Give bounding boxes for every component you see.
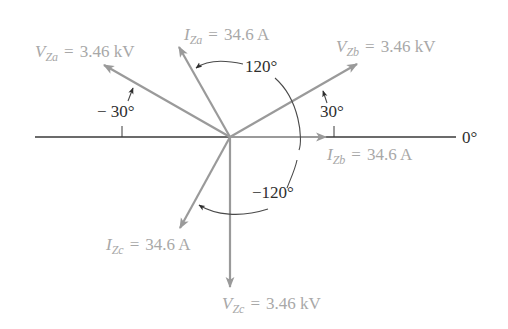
angle-label-120: 120° — [245, 57, 277, 76]
phasor-izc-arrow — [180, 137, 230, 228]
label-vzb: VZb=3.46 kV — [336, 37, 436, 59]
label-izc: IZc=34.6 A — [105, 235, 191, 257]
label-vzc: VZc=3.46 kV — [222, 294, 321, 316]
angle-label-neg120: −120° — [252, 183, 294, 202]
reference-zero-label: 0° — [462, 128, 477, 147]
arc-vzb-to-vzc — [275, 78, 300, 150]
arrow-neg30 — [128, 88, 133, 101]
arc-izc-neg120 — [199, 205, 268, 214]
phasor-vza-arrow — [104, 65, 230, 137]
label-vza: VZa=3.46 kV — [35, 42, 135, 64]
arc-iza-120 — [196, 61, 243, 68]
angle-label-neg30: − 30° — [97, 102, 135, 121]
phasor-diagram: 0° − 30° 30° 120° −120° VZa=3.46 kV IZa=… — [0, 0, 508, 329]
label-izb: IZb=34.6 A — [326, 145, 413, 167]
label-iza: IZa=34.6 A — [183, 25, 270, 47]
angle-label-30: 30° — [320, 102, 344, 121]
